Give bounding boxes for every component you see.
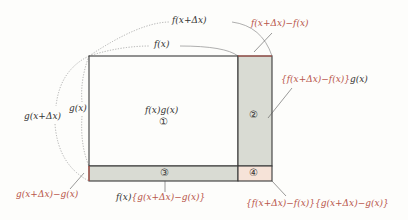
leader-delta-g — [70, 173, 84, 189]
region-1-marker: ① — [159, 117, 168, 127]
region-2-area-label: {f(x+Δx)−f(x)}g(x) — [281, 75, 368, 84]
label-delta-f: f(x+Δx)−f(x) — [251, 19, 309, 28]
region-3-label-red: {g(x+Δx)−g(x)} — [131, 192, 205, 202]
arc-g-x-bottom — [82, 116, 89, 166]
product-rule-diagram: f(x+Δx) f(x) f(x+Δx)−f(x) g(x) g(x+Δx) g… — [0, 0, 408, 220]
region-3-label-black: f(x) — [116, 192, 131, 202]
label-f-x-plus-dx: f(x+Δx) — [172, 16, 207, 25]
region-3-marker: ③ — [160, 168, 169, 178]
arc-f-x — [89, 46, 150, 56]
label-f-x: f(x) — [154, 40, 169, 49]
region-3-area-label: f(x){g(x+Δx)−g(x)} — [116, 193, 205, 202]
leader-region-4 — [272, 181, 286, 196]
region-4-marker: ④ — [249, 168, 258, 178]
arc-g-x — [82, 56, 89, 102]
region-2-marker: ② — [249, 110, 258, 120]
label-g-x-plus-dx: g(x+Δx) — [24, 112, 61, 121]
label-delta-g: g(x+Δx)−g(x) — [16, 190, 78, 199]
label-g-x: g(x) — [69, 104, 87, 113]
diagram-graphics — [0, 0, 408, 220]
region-1-area-label: f(x)g(x) — [145, 106, 178, 115]
region-4-area-label: {f(x+Δx)−f(x)}{g(x+Δx)−g(x)} — [246, 199, 389, 208]
arc-g-x-plus-dx-bottom — [55, 124, 89, 181]
arc-g-x-plus-dx — [56, 56, 89, 106]
region-2-label-red: {f(x+Δx)−f(x)} — [281, 74, 350, 84]
region-2-label-black: g(x) — [350, 74, 368, 84]
arc-f-x-right — [180, 46, 238, 56]
